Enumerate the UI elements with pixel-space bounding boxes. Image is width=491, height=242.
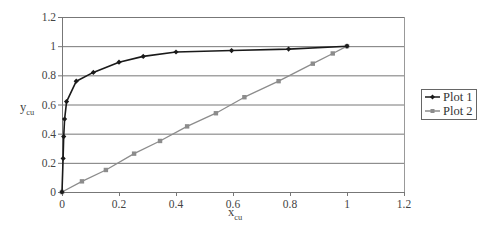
square-marker xyxy=(311,61,315,65)
y-tick-label: 1.2 xyxy=(42,11,57,23)
legend-label: Plot 1 xyxy=(443,90,473,104)
y-tick-label: 0.8 xyxy=(42,69,57,81)
square-marker xyxy=(104,168,108,172)
series-plot-2 xyxy=(60,44,349,194)
y-tick-label: 0.6 xyxy=(42,99,57,111)
x-tick-label: 1.2 xyxy=(397,198,412,210)
plot-series xyxy=(59,44,349,195)
diamond-marker xyxy=(141,54,146,59)
diamond-marker xyxy=(91,70,96,75)
x-tick-label: 0.8 xyxy=(283,198,298,210)
x-tick-label: 1 xyxy=(344,198,350,210)
x-tick-label: 0 xyxy=(59,198,65,210)
legend: Plot 1 Plot 2 xyxy=(422,90,477,120)
square-marker-icon xyxy=(431,109,435,113)
x-axis-label-sub: cu xyxy=(234,212,243,222)
diamond-marker xyxy=(286,46,291,51)
y-tick-label: 1 xyxy=(50,40,56,52)
x-tick-label: 0.2 xyxy=(112,198,127,210)
y-tick-label: 0 xyxy=(50,186,56,198)
y-axis-label: ycu xyxy=(20,100,35,117)
diamond-marker xyxy=(61,134,66,139)
legend-label: Plot 2 xyxy=(443,104,473,118)
y-tick-label: 0.2 xyxy=(42,157,57,169)
diamond-marker xyxy=(116,60,121,65)
square-marker xyxy=(276,79,280,83)
y-axis-label-sub: cu xyxy=(26,107,35,117)
x-axis-ticks: 00.20.40.60.811.2 xyxy=(59,192,411,210)
y-axis-ticks: 00.20.40.60.811.2 xyxy=(42,11,62,198)
square-marker xyxy=(185,124,189,128)
square-marker xyxy=(158,139,162,143)
square-marker xyxy=(331,51,335,55)
diamond-marker xyxy=(61,156,66,161)
diamond-marker xyxy=(74,79,79,84)
diamond-marker xyxy=(173,49,178,54)
x-tick-label: 0.4 xyxy=(169,198,184,210)
diamond-marker xyxy=(229,48,234,53)
square-marker xyxy=(132,151,136,155)
square-marker xyxy=(214,111,218,115)
diamond-marker xyxy=(64,99,69,104)
square-marker xyxy=(80,179,84,183)
y-tick-label: 0.4 xyxy=(42,128,57,140)
square-marker xyxy=(242,95,246,99)
chart: 00.20.40.60.811.2 00.20.40.60.811.2 xcu … xyxy=(0,0,491,242)
